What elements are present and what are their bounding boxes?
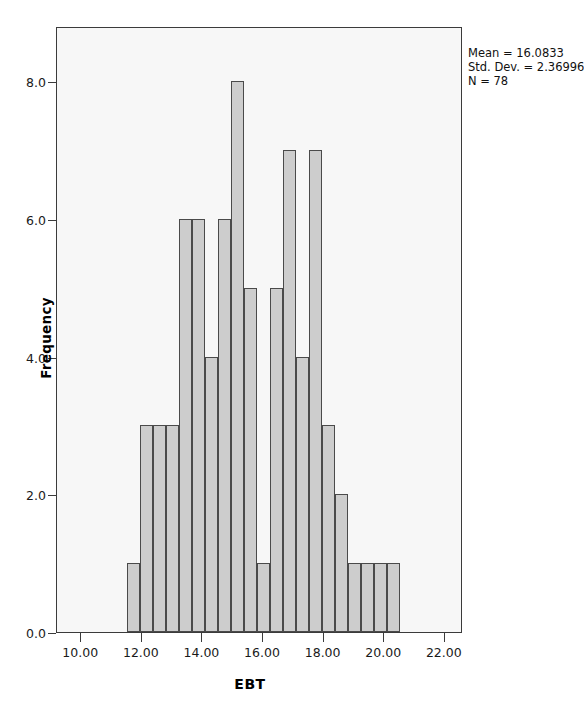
x-axis-tick-label: 16.00 bbox=[244, 645, 280, 660]
histogram-bar bbox=[153, 425, 166, 632]
histogram-bar bbox=[296, 357, 309, 632]
histogram-bar bbox=[231, 81, 244, 632]
x-axis-title: EBT bbox=[0, 676, 500, 692]
histogram-bar bbox=[309, 150, 322, 632]
histogram-bar bbox=[244, 288, 257, 632]
histogram-bar bbox=[361, 563, 374, 632]
y-axis-tick-label: 2.0 bbox=[26, 488, 46, 503]
histogram-bar bbox=[205, 357, 218, 632]
histogram-bar bbox=[218, 219, 231, 632]
x-axis-tick bbox=[80, 633, 81, 642]
histogram-bar bbox=[374, 563, 387, 632]
histogram-bar bbox=[179, 219, 192, 632]
x-axis-tick bbox=[201, 633, 202, 642]
histogram-bar bbox=[166, 425, 179, 632]
bars-layer bbox=[57, 28, 461, 632]
histogram-bar bbox=[283, 150, 296, 632]
x-axis-tick-label: 18.00 bbox=[305, 645, 341, 660]
stat-mean: Mean = 16.0833 bbox=[468, 46, 584, 60]
plot-area bbox=[56, 27, 462, 633]
x-axis-tick bbox=[444, 633, 445, 642]
stat-n: N = 78 bbox=[468, 74, 584, 88]
stat-std-dev: Std. Dev. = 2.36996 bbox=[468, 60, 584, 74]
histogram-bar bbox=[140, 425, 153, 632]
statistics-annotation: Mean = 16.0833 Std. Dev. = 2.36996 N = 7… bbox=[468, 46, 584, 88]
x-axis-tick bbox=[141, 633, 142, 642]
y-axis-tick-label: 8.0 bbox=[26, 75, 46, 90]
histogram-bar bbox=[322, 425, 335, 632]
y-axis-title: Frequency bbox=[38, 278, 54, 398]
x-axis-tick bbox=[262, 633, 263, 642]
x-axis-tick bbox=[323, 633, 324, 642]
histogram-bar bbox=[387, 563, 400, 632]
x-axis-tick bbox=[383, 633, 384, 642]
histogram-bar bbox=[270, 288, 283, 632]
x-axis-tick-label: 12.00 bbox=[123, 645, 159, 660]
histogram-bar bbox=[257, 563, 270, 632]
x-axis-tick-label: 10.00 bbox=[62, 645, 98, 660]
histogram-bar bbox=[127, 563, 140, 632]
x-axis-tick-label: 22.00 bbox=[426, 645, 462, 660]
histogram-bar bbox=[348, 563, 361, 632]
y-axis-tick bbox=[48, 220, 56, 221]
y-axis-tick-label: 0.0 bbox=[26, 626, 46, 641]
x-axis-tick-label: 20.00 bbox=[365, 645, 401, 660]
y-axis-tick bbox=[48, 495, 56, 496]
y-axis-tick bbox=[48, 82, 56, 83]
y-axis-tick bbox=[48, 633, 56, 634]
histogram-bar bbox=[335, 494, 348, 632]
x-axis-tick-label: 14.00 bbox=[184, 645, 220, 660]
histogram-bar bbox=[192, 219, 205, 632]
y-axis-tick-label: 6.0 bbox=[26, 212, 46, 227]
